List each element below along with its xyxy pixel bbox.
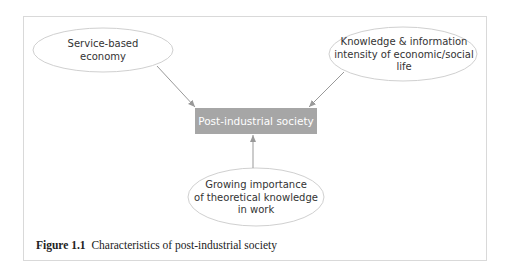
center-node-box: Post-industrial society bbox=[195, 108, 317, 134]
arrow-service bbox=[157, 66, 195, 107]
knowledge-line-3: life bbox=[333, 61, 475, 74]
theory-node-label: Growing importance of theoretical knowle… bbox=[188, 179, 324, 217]
theory-line-3: in work bbox=[188, 204, 324, 217]
service-node-label: Service-based economy bbox=[43, 38, 163, 63]
figure-caption: Figure 1.1 Characteristics of post-indus… bbox=[36, 239, 277, 251]
knowledge-line-1: Knowledge & information bbox=[333, 36, 475, 49]
knowledge-line-2: intensity of economic/social bbox=[333, 49, 475, 62]
theory-line-2: of theoretical knowledge bbox=[188, 192, 324, 205]
service-line-2: economy bbox=[43, 51, 163, 64]
center-node-label: Post-industrial society bbox=[198, 115, 314, 127]
theory-line-1: Growing importance bbox=[188, 179, 324, 192]
caption-text: Characteristics of post-industrial socie… bbox=[91, 239, 277, 251]
service-line-1: Service-based bbox=[43, 38, 163, 51]
caption-label: Figure 1.1 bbox=[36, 239, 86, 251]
knowledge-node-label: Knowledge & information intensity of eco… bbox=[333, 36, 475, 74]
arrow-knowledge bbox=[309, 72, 344, 107]
